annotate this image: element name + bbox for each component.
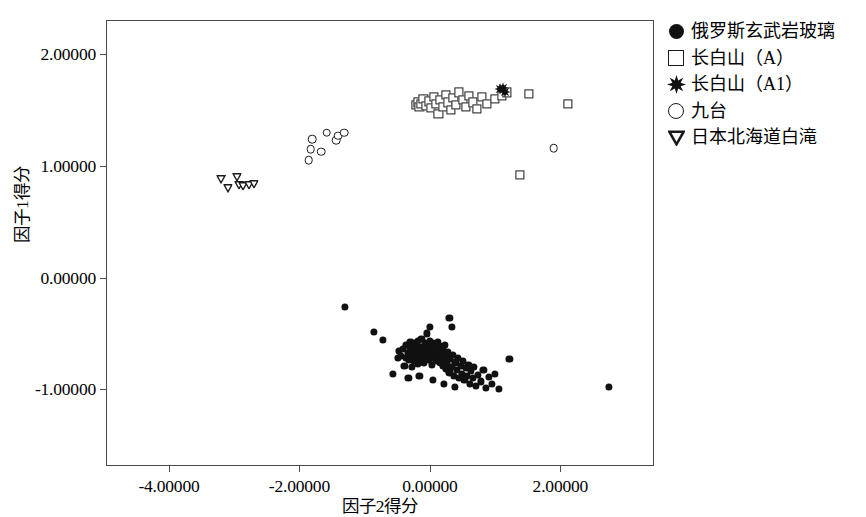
data-point (426, 338, 433, 345)
data-point (417, 357, 424, 364)
data-point (407, 353, 414, 360)
data-point (437, 359, 444, 366)
data-point (440, 348, 447, 355)
data-point (436, 96, 445, 105)
data-point (439, 353, 446, 360)
x-axis-label: 因子2得分 (106, 492, 654, 517)
plot-area: 2.000001.000000.00000-1.00000-4.00000-2.… (106, 20, 654, 466)
data-point (429, 92, 438, 101)
data-point (409, 348, 416, 355)
data-point (429, 348, 436, 355)
data-point (515, 170, 524, 179)
data-point (463, 372, 470, 379)
data-point (445, 349, 452, 356)
data-point (471, 363, 478, 370)
data-point (413, 345, 420, 352)
data-point (410, 358, 417, 365)
data-point (432, 358, 439, 365)
data-point (420, 359, 427, 366)
data-point (442, 365, 449, 372)
data-point (438, 345, 445, 352)
data-point (433, 347, 440, 354)
legend-item[interactable]: 俄罗斯玄武岩玻璃 (664, 18, 864, 45)
data-point (465, 361, 472, 368)
legend-item[interactable]: 长白山（A） (664, 45, 864, 72)
data-point (402, 354, 409, 361)
data-point (306, 145, 315, 154)
data-point (491, 94, 500, 103)
data-point (342, 303, 349, 310)
data-point (438, 102, 447, 111)
data-point (444, 98, 453, 107)
data-point (482, 384, 489, 391)
data-point (432, 343, 439, 350)
data-point (389, 370, 396, 377)
data-point (419, 94, 428, 103)
data-point (483, 99, 492, 108)
data-point (461, 102, 470, 111)
data-point (426, 323, 433, 330)
data-point (430, 354, 437, 361)
data-point (396, 348, 403, 355)
data-point (304, 156, 313, 165)
data-point (437, 351, 444, 358)
data-point (413, 350, 420, 357)
data-point (446, 106, 455, 115)
data-point (448, 323, 455, 330)
data-point (430, 340, 437, 347)
data-point (427, 352, 434, 359)
data-point (472, 105, 481, 114)
data-point (497, 91, 506, 100)
data-point (394, 354, 401, 361)
data-point (458, 370, 465, 377)
data-point (475, 371, 482, 378)
data-point (424, 342, 431, 349)
y-axis-tick (100, 54, 107, 55)
data-point (421, 101, 430, 110)
y-axis-tick-label: 1.00000 (41, 156, 96, 177)
data-point (413, 98, 422, 107)
data-point (506, 355, 513, 362)
data-point (494, 83, 506, 95)
star-marker (664, 72, 688, 96)
data-point (420, 344, 427, 351)
data-point (430, 377, 437, 384)
y-axis-tick (100, 389, 107, 390)
data-point (332, 136, 341, 145)
filled-circle-marker (664, 19, 688, 43)
data-point (451, 100, 460, 109)
data-point (452, 359, 459, 366)
data-point (502, 88, 511, 97)
data-point (606, 383, 613, 390)
data-point (443, 352, 450, 359)
data-point (485, 373, 492, 380)
data-point (415, 102, 424, 111)
legend-item[interactable]: 九台 (664, 98, 864, 125)
data-point (414, 338, 421, 345)
data-point (415, 348, 422, 355)
data-point (434, 339, 441, 346)
data-point (456, 374, 463, 381)
data-point (447, 355, 454, 362)
legend-item-label: 日本北海道白滝 (691, 128, 817, 146)
data-point (466, 380, 473, 387)
data-point (323, 128, 332, 137)
data-point (457, 362, 464, 369)
data-point (441, 90, 450, 99)
data-point (446, 369, 453, 376)
legend-item[interactable]: 长白山（A1） (664, 71, 864, 98)
open-circle-marker (664, 99, 688, 123)
data-point (403, 341, 410, 348)
data-point (409, 342, 416, 349)
data-point (426, 349, 433, 356)
data-point (232, 172, 241, 181)
data-point (451, 383, 458, 390)
data-point (317, 147, 326, 156)
data-point (411, 351, 418, 358)
legend-item[interactable]: 日本北海道白滝 (664, 124, 864, 151)
data-point (400, 345, 407, 352)
data-point (416, 353, 423, 360)
data-point (428, 344, 435, 351)
y-axis-label: 因子1得分 (8, 166, 33, 243)
y-axis-tick-label: 0.00000 (41, 267, 96, 288)
